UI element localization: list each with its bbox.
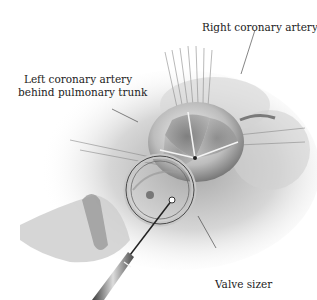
- label-left-coronary-artery-line2: behind pulmonary trunk: [18, 86, 138, 99]
- surgical-illustration: [0, 0, 317, 300]
- label-right-coronary-artery: Right coronary artery: [202, 21, 317, 34]
- label-valve-sizer: Valve sizer: [215, 278, 272, 291]
- figure-canvas: Right coronary artery Left coronary arte…: [0, 0, 317, 300]
- label-left-coronary-artery-line1: Left coronary artery: [18, 73, 138, 86]
